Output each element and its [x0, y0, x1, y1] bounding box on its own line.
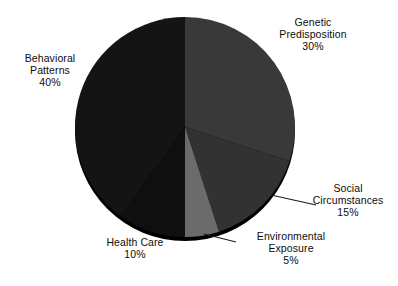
slice-label-genetic-predisposition: Genetic Predisposition 30%	[252, 16, 374, 53]
slice-label-value: 40%	[2, 76, 98, 88]
slice-label-social-circumstances: Social Circumstances 15%	[300, 182, 396, 219]
pie-chart-figure: Genetic Predisposition 30% Behavioral Pa…	[0, 0, 398, 286]
slice-label-line1: Social	[300, 182, 396, 194]
slice-label-line2: Predisposition	[252, 28, 374, 40]
slice-label-value: 5%	[232, 254, 350, 266]
slice-label-line1: Health Care	[80, 236, 190, 248]
slice-label-line1: Environmental	[232, 230, 350, 242]
slice-label-line1: Behavioral	[2, 52, 98, 64]
slice-label-line1: Genetic	[252, 16, 374, 28]
slice-label-environmental-exposure: Environmental Exposure 5%	[232, 230, 350, 267]
slice-label-line2: Patterns	[2, 64, 98, 76]
slice-label-value: 15%	[300, 206, 396, 218]
slice-label-line2: Circumstances	[300, 194, 396, 206]
slice-label-value: 10%	[80, 248, 190, 260]
slice-label-line2: Exposure	[232, 242, 350, 254]
slice-label-health-care: Health Care 10%	[80, 236, 190, 260]
slice-label-value: 30%	[252, 40, 374, 52]
slice-label-behavioral-patterns: Behavioral Patterns 40%	[2, 52, 98, 89]
